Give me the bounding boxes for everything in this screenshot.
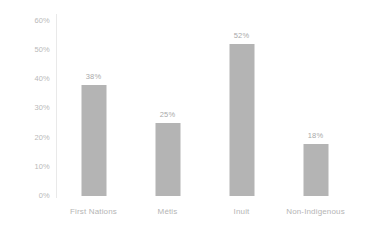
- y-tick-label-30: 30%: [0, 104, 50, 112]
- bar-value-non-indigenous: 18%: [308, 132, 324, 140]
- bar-group-first-nations: 38% First Nations: [57, 0, 130, 238]
- bar-first-nations: [81, 85, 106, 196]
- bar-metis: [155, 123, 180, 196]
- y-tick-label-20: 20%: [0, 134, 50, 142]
- bar-group-inuit: 52% Inuit: [205, 0, 278, 238]
- bar-group-metis: 25% Métis: [131, 0, 204, 238]
- bar-value-metis: 25%: [160, 111, 176, 119]
- y-tick-label-10: 10%: [0, 163, 50, 171]
- bar-inuit: [229, 44, 254, 196]
- x-category-label-inuit: Inuit: [234, 208, 250, 216]
- x-category-label-first-nations: First Nations: [70, 208, 117, 216]
- y-tick-label-0: 0%: [0, 192, 50, 200]
- y-tick-label-60: 60%: [0, 17, 50, 25]
- bar-series: 38% First Nations 25% Métis 52% Inuit 18…: [57, 0, 352, 238]
- x-category-label-non-indigenous: Non-Indigenous: [286, 208, 345, 216]
- bar-non-indigenous: [303, 144, 328, 197]
- bar-value-inuit: 52%: [234, 32, 250, 40]
- bar-group-non-indigenous: 18% Non-Indigenous: [279, 0, 352, 238]
- y-tick-label-50: 50%: [0, 46, 50, 54]
- x-category-label-metis: Métis: [158, 208, 178, 216]
- y-tick-label-40: 40%: [0, 75, 50, 83]
- bar-chart: 60% 50% 40% 30% 20% 10% 0% 38% First Nat…: [0, 0, 376, 238]
- bar-value-first-nations: 38%: [86, 73, 102, 81]
